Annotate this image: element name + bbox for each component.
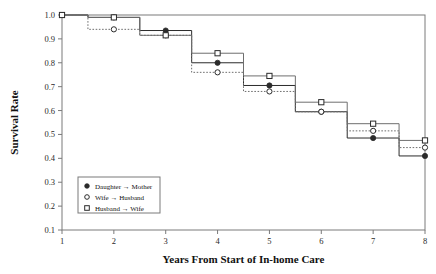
y-axis-tick-label: 0.5	[44, 129, 55, 139]
marker-open-square-2-3	[215, 51, 220, 56]
legend-label-0: Daughter → Mother	[95, 183, 153, 191]
y-axis-tick-label: 0.2	[44, 201, 55, 211]
marker-open-circle-1-1	[111, 27, 116, 32]
marker-filled-circle-0-7	[422, 153, 427, 158]
y-axis-tick-label: 0.8	[44, 58, 55, 68]
y-axis-tick-label: 0.3	[44, 177, 55, 187]
survival-chart-svg: 1.00.90.80.70.60.50.40.30.20.112345678Ye…	[0, 0, 436, 274]
legend-marker-filled-circle	[85, 184, 90, 189]
x-axis-tick-label: 5	[267, 236, 271, 246]
y-axis-tick-label: 0.6	[44, 106, 55, 116]
y-axis-tick-label: 0.7	[44, 82, 55, 92]
series-step-line-1	[62, 15, 425, 148]
x-axis-tick-label: 2	[112, 236, 116, 246]
legend-label-2: Husband → Wife	[95, 205, 144, 213]
x-axis-tick-label: 7	[371, 236, 375, 246]
x-axis-tick-label: 4	[215, 236, 220, 246]
x-axis-tick-label: 3	[164, 236, 168, 246]
marker-open-square-2-7	[422, 138, 427, 143]
survival-chart-figure: 1.00.90.80.70.60.50.40.30.20.112345678Ye…	[0, 0, 436, 274]
x-axis-title: Years From Start of In-home Care	[163, 253, 325, 265]
legend-marker-open-circle	[85, 195, 90, 200]
y-axis-tick-label: 0.1	[44, 225, 55, 235]
y-axis-tick-label: 0.9	[44, 34, 55, 44]
marker-open-square-2-1	[111, 15, 116, 20]
marker-open-circle-1-5	[319, 109, 324, 114]
marker-open-square-2-0	[59, 12, 64, 17]
marker-open-square-2-6	[371, 121, 376, 126]
marker-filled-circle-0-3	[215, 60, 220, 65]
legend-marker-open-square	[85, 206, 90, 211]
x-axis-tick-label: 8	[423, 236, 427, 246]
legend-label-1: Wife → Husband	[95, 194, 145, 202]
y-axis-tick-label: 1.0	[44, 10, 55, 20]
series-step-line-0	[62, 15, 425, 156]
y-axis-tick-label: 0.4	[44, 153, 55, 163]
x-axis-tick-label: 1	[60, 236, 64, 246]
marker-open-square-2-4	[267, 73, 272, 78]
marker-open-circle-1-7	[422, 145, 427, 150]
y-axis-title: Survival Rate	[8, 90, 20, 155]
marker-filled-circle-0-4	[267, 83, 272, 88]
marker-open-square-2-5	[319, 100, 324, 105]
marker-open-square-2-2	[163, 33, 168, 38]
marker-open-circle-1-4	[267, 89, 272, 94]
x-axis-tick-label: 6	[319, 236, 323, 246]
marker-filled-circle-0-6	[371, 135, 376, 140]
marker-open-circle-1-3	[215, 70, 220, 75]
marker-open-circle-1-6	[371, 128, 376, 133]
